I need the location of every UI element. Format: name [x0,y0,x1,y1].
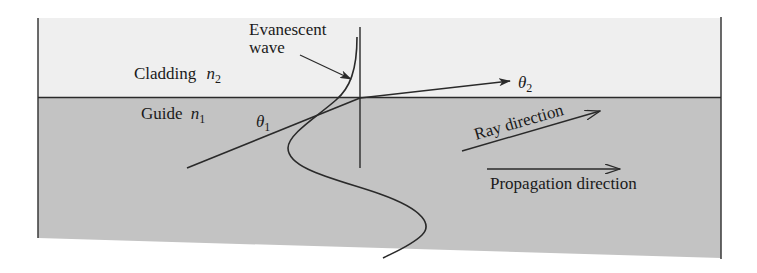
evanescent-label-line2: wave [249,38,285,57]
svg-text:Guide n1: Guide n1 [141,104,205,126]
waveguide-diagram: Evanescent wave Cladding n2 Guide n1 θ1 … [0,0,757,273]
evanescent-label-line1: Evanescent [249,20,327,39]
cladding-region [38,18,721,98]
propagation-direction-label: Propagation direction [490,174,637,193]
guide-label: Guide n1 [141,104,205,126]
svg-text:Cladding n2: Cladding n2 [134,64,221,86]
cladding-label: Cladding n2 [134,64,221,86]
